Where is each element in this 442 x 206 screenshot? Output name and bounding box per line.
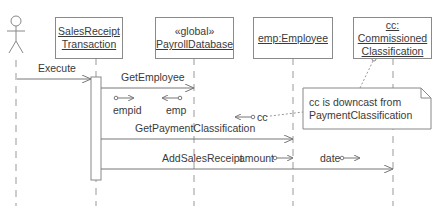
note-anchor-object [360, 61, 373, 88]
cc-param-dot [251, 115, 255, 119]
object-name: cc: [386, 19, 399, 32]
object-name: Commissioned [358, 32, 427, 45]
object-name: SalesReceipt [58, 25, 120, 38]
empid-param-dot [114, 96, 118, 100]
object-employee: emp:Employee [253, 17, 333, 59]
param-date: date [320, 152, 340, 164]
param-amount: amount [239, 152, 274, 164]
date-param-dot [340, 156, 344, 160]
object-salesreceipt-transaction: SalesReceipt Transaction [55, 17, 123, 59]
activation-bar [91, 77, 101, 180]
stereotype: «global» [175, 25, 215, 38]
object-name: emp:Employee [258, 32, 328, 45]
note-line-1: cc is downcast from [309, 96, 412, 109]
param-emp: emp [166, 104, 186, 116]
message-execute: Execute [38, 62, 76, 74]
param-cc: cc [257, 111, 268, 123]
note-line-2: PaymentClassification [309, 109, 412, 122]
actor-icon [7, 16, 25, 53]
message-getpaymentclassification: GetPaymentClassification [135, 122, 255, 134]
note-anchor-cc [262, 112, 303, 117]
note-text: cc is downcast from PaymentClassificatio… [309, 96, 412, 122]
message-getemployee: GetEmployee [121, 71, 185, 83]
param-empid: empid [113, 104, 142, 116]
object-payrolldatabase: «global» PayrollDatabase [155, 17, 234, 59]
object-name: Transaction [62, 38, 116, 51]
object-name: PayrollDatabase [156, 38, 233, 51]
message-addsalesreceipt: AddSalesReceipt [162, 152, 243, 164]
emp-param-dot [178, 96, 182, 100]
object-commissioned-classification: cc: Commissioned Classification [353, 17, 432, 59]
object-name: Classification [362, 45, 424, 58]
